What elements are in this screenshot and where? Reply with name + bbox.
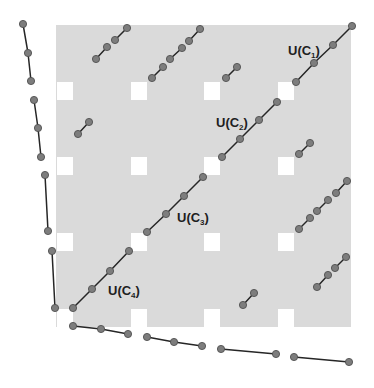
node-dot [143, 228, 150, 235]
white-gap-square-r1c2 [204, 157, 220, 175]
node-dot [19, 20, 26, 27]
node-dot [218, 153, 225, 160]
node-dot [272, 350, 279, 357]
node-dot [27, 77, 34, 84]
node-dot [111, 36, 118, 43]
white-gap-square-r2c0 [57, 233, 73, 251]
label-uc4: U(C4) [108, 283, 140, 300]
node-dot [85, 118, 92, 125]
node-dot [255, 116, 262, 123]
node-dot [313, 207, 320, 214]
node-dot [34, 124, 41, 131]
node-dot [166, 55, 173, 62]
node-dot [196, 25, 203, 32]
diagram-canvas: U(C1) U(C2) U(C3) U(C4) [0, 0, 374, 388]
node-dot [24, 49, 31, 56]
node-dot [170, 338, 177, 345]
node-dot [273, 98, 280, 105]
white-gap-square-r3c3 [278, 309, 294, 327]
node-dot [295, 150, 302, 157]
connector-line [294, 357, 349, 362]
white-gap-square-r2c1 [131, 233, 147, 251]
node-dot [329, 41, 336, 48]
white-gap-square-r2c2 [204, 233, 220, 251]
node-dot [313, 283, 320, 290]
white-gap-square-r1c1 [131, 157, 147, 175]
node-dot [239, 301, 246, 308]
node-dot [199, 173, 206, 180]
node-dot [162, 210, 169, 217]
node-dot [106, 267, 113, 274]
node-dot [41, 171, 48, 178]
node-dot [180, 192, 187, 199]
node-dot [306, 214, 313, 221]
left-vertical-segment-3 [41, 171, 51, 234]
node-dot [306, 139, 313, 146]
node-dot [331, 264, 338, 271]
node-dot [233, 63, 240, 70]
node-dot [125, 247, 132, 254]
left-vertical-segment-1 [19, 20, 34, 84]
node-dot [103, 43, 110, 50]
node-dot [295, 225, 302, 232]
label-uc2: U(C2) [216, 115, 248, 132]
node-dot [48, 247, 55, 254]
white-gap-square-r0c0 [57, 82, 73, 100]
white-gap-square-r3c2 [204, 309, 220, 327]
node-dot [250, 289, 257, 296]
white-gap-square-r0c2 [204, 82, 220, 100]
node-dot [324, 196, 331, 203]
node-dot [148, 74, 155, 81]
node-dot [178, 44, 185, 51]
node-dot [310, 59, 317, 66]
node-dot [342, 253, 349, 260]
white-gap-square-r1c3 [278, 157, 294, 175]
node-dot [97, 325, 104, 332]
label-uc3: U(C3) [177, 210, 209, 227]
node-dot [185, 37, 192, 44]
node-dot [69, 322, 76, 329]
white-gap-square-r2c3 [278, 233, 294, 251]
label-uc1: U(C1) [288, 43, 320, 60]
node-dot [324, 271, 331, 278]
bottom-horizontal-segment-2 [143, 333, 205, 349]
node-dot [292, 78, 299, 85]
left-vertical-segment-2 [30, 96, 44, 160]
node-dot [159, 63, 166, 70]
node-dot [69, 304, 76, 311]
node-dot [88, 285, 95, 292]
node-dot [74, 130, 81, 137]
node-dot [51, 304, 58, 311]
node-dot [124, 330, 131, 337]
node-dot [143, 333, 150, 340]
bottom-horizontal-segment-4 [290, 353, 352, 365]
white-gap-square-r0c1 [131, 82, 147, 100]
connector-line [52, 251, 55, 308]
node-dot [348, 22, 355, 29]
node-dot [332, 189, 339, 196]
white-gap-square-r0c3 [278, 82, 294, 100]
connector-line [45, 175, 48, 231]
node-dot [343, 177, 350, 184]
node-dot [290, 353, 297, 360]
node-dot [123, 24, 130, 31]
node-dot [92, 55, 99, 62]
white-gap-square-r3c1 [131, 309, 147, 327]
node-dot [222, 74, 229, 81]
white-gap-square-r1c0 [57, 157, 73, 175]
node-dot [198, 342, 205, 349]
node-dot [37, 153, 44, 160]
node-dot [217, 345, 224, 352]
bottom-horizontal-segment-3 [217, 345, 279, 357]
connector-line [221, 349, 276, 354]
node-dot [30, 96, 37, 103]
node-dot [236, 135, 243, 142]
node-dot [44, 227, 51, 234]
node-dot [345, 358, 352, 365]
